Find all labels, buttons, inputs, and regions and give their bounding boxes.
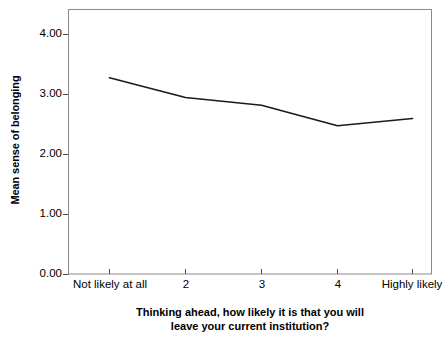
y-axis-ticks — [63, 35, 69, 275]
x-tick-label-0: Not likely at all — [73, 278, 147, 290]
x-axis-title: Thinking ahead, how likely it is that yo… — [68, 305, 432, 333]
x-tick-label-2: 3 — [259, 278, 265, 290]
plot-area — [0, 0, 448, 343]
x-axis-title-line-2: leave your current institution? — [68, 319, 432, 333]
x-axis-title-line-1: Thinking ahead, how likely it is that yo… — [68, 305, 432, 319]
x-tick-label-4: Highly likely — [382, 278, 443, 290]
chart-figure: Mean sense of belonging 4.00 3.00 2.00 1… — [0, 0, 448, 343]
x-tick-label-1: 2 — [183, 278, 189, 290]
plot-frame — [69, 10, 432, 275]
x-tick-label-3: 4 — [335, 278, 341, 290]
